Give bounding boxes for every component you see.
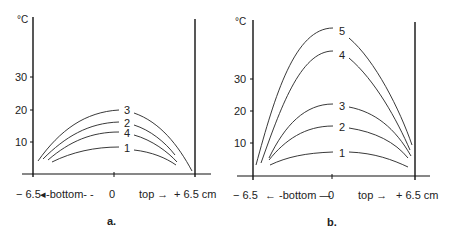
curve-a-4 — [48, 132, 119, 160]
x-label-right: + 6.5 cm — [396, 189, 439, 201]
curve-label-1: 1 — [123, 142, 131, 154]
x-label-right: + 6.5 cm — [174, 188, 217, 200]
x-dir-top: top → — [358, 189, 387, 201]
x-dir-top: top → — [139, 188, 168, 200]
y-tick-20: 20 — [234, 105, 246, 117]
curve-label-4: 4 — [123, 127, 131, 139]
chart-a-plot — [0, 0, 225, 240]
curve-a-3 — [38, 110, 119, 161]
curve-label-3: 3 — [338, 100, 346, 112]
chart-panel-b: °C 30 20 10 5 4 3 2 1 − 6.5 ← -bottom — … — [225, 0, 451, 240]
y-tick-30: 30 — [15, 71, 27, 83]
y-tick-10: 10 — [15, 136, 27, 148]
curve-label-2: 2 — [338, 121, 346, 133]
panel-caption-a: a. — [107, 215, 116, 227]
y-tick-30: 30 — [234, 73, 246, 85]
x-label-center: 0 — [328, 189, 334, 201]
x-label-left: − 6.5 — [233, 189, 258, 201]
curve-b-2 — [269, 126, 333, 160]
x-label-left: − 6.5 — [16, 188, 41, 200]
curve-b-1 — [270, 152, 333, 165]
y-axis-unit: °C — [235, 16, 246, 28]
y-tick-10: 10 — [234, 137, 246, 149]
curve-label-5: 5 — [338, 25, 346, 37]
x-label-center: 0 — [109, 188, 115, 200]
x-dir-bottom: ◂-bottom- - — [40, 188, 94, 200]
curve-b-4 — [261, 51, 333, 163]
curve-label-3: 3 — [123, 104, 131, 116]
curve-label-4: 4 — [338, 49, 346, 61]
y-axis-unit: °C — [17, 14, 28, 26]
curve-label-1: 1 — [338, 147, 346, 159]
chart-panel-a: °C 30 20 10 3 2 4 1 − 6.5 ◂-bottom- - 0 … — [0, 0, 225, 240]
y-tick-20: 20 — [15, 104, 27, 116]
x-dir-bottom: ← -bottom — — [265, 189, 330, 201]
panel-caption-b: b. — [327, 216, 337, 228]
